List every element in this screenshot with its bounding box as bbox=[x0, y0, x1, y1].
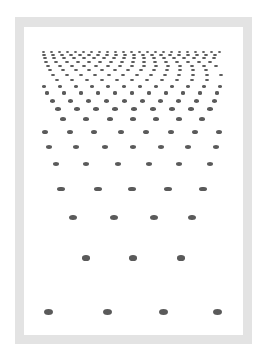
dot bbox=[72, 57, 75, 59]
dot bbox=[65, 61, 69, 63]
dot-field-canvas bbox=[24, 27, 243, 335]
dot bbox=[178, 69, 182, 72]
dot bbox=[58, 65, 62, 68]
dot bbox=[114, 51, 117, 53]
dot bbox=[93, 74, 97, 77]
dot bbox=[204, 54, 207, 56]
dot bbox=[194, 51, 197, 53]
dot bbox=[176, 99, 181, 102]
dot bbox=[122, 57, 125, 59]
dot bbox=[159, 54, 162, 56]
dot bbox=[218, 51, 221, 53]
dot bbox=[51, 54, 54, 56]
dot bbox=[202, 65, 206, 68]
dot bbox=[164, 91, 169, 94]
dot bbox=[149, 74, 153, 77]
dot bbox=[164, 187, 171, 192]
dot bbox=[192, 130, 198, 134]
dot bbox=[130, 79, 134, 82]
dot bbox=[208, 61, 212, 63]
dot bbox=[164, 61, 168, 63]
dot bbox=[62, 57, 65, 59]
dot bbox=[146, 162, 153, 166]
dot bbox=[140, 99, 145, 102]
dot bbox=[96, 91, 101, 94]
dot bbox=[120, 61, 124, 63]
dot bbox=[94, 187, 101, 192]
dot bbox=[68, 99, 73, 102]
dot bbox=[218, 85, 223, 88]
dot bbox=[175, 79, 179, 82]
dot bbox=[219, 74, 223, 77]
dot bbox=[172, 57, 175, 59]
dot bbox=[142, 57, 145, 59]
dot bbox=[153, 61, 157, 63]
dot bbox=[61, 69, 65, 72]
dot bbox=[66, 51, 69, 53]
dot bbox=[102, 145, 108, 149]
dot bbox=[139, 69, 143, 72]
dot bbox=[176, 117, 182, 121]
dot bbox=[182, 57, 185, 59]
dot bbox=[154, 85, 159, 88]
dot bbox=[202, 85, 207, 88]
dot bbox=[90, 51, 93, 53]
dot bbox=[73, 145, 79, 149]
dot bbox=[50, 51, 53, 53]
dot bbox=[190, 79, 194, 82]
dot bbox=[79, 91, 84, 94]
dot bbox=[177, 54, 180, 56]
dot bbox=[185, 145, 191, 149]
dot bbox=[126, 69, 130, 72]
dot bbox=[93, 107, 98, 111]
dot bbox=[205, 74, 209, 77]
dot bbox=[204, 69, 208, 72]
dot bbox=[82, 255, 90, 260]
dot bbox=[113, 69, 117, 72]
dot bbox=[122, 99, 127, 102]
dot bbox=[166, 65, 170, 68]
dot bbox=[106, 51, 109, 53]
dot bbox=[109, 61, 113, 63]
dot bbox=[67, 130, 73, 134]
dot bbox=[153, 117, 159, 121]
dot bbox=[55, 79, 59, 82]
dot bbox=[112, 107, 117, 111]
dot bbox=[46, 145, 52, 149]
dot bbox=[130, 65, 134, 68]
dot bbox=[205, 79, 209, 82]
dot bbox=[199, 187, 206, 192]
dot bbox=[198, 91, 203, 94]
dot bbox=[76, 61, 80, 63]
dot bbox=[92, 57, 95, 59]
dot bbox=[186, 61, 190, 63]
dot bbox=[147, 91, 152, 94]
dot bbox=[55, 107, 60, 111]
dot bbox=[74, 85, 79, 88]
dot bbox=[60, 117, 66, 121]
dot bbox=[130, 117, 136, 121]
dot bbox=[146, 51, 149, 53]
dot bbox=[107, 117, 113, 121]
dot bbox=[132, 57, 135, 59]
dot bbox=[70, 79, 74, 82]
dot bbox=[142, 61, 146, 63]
dot bbox=[199, 117, 205, 121]
dot bbox=[215, 91, 220, 94]
dot bbox=[100, 79, 104, 82]
dot bbox=[186, 85, 191, 88]
dot bbox=[188, 107, 193, 111]
dot bbox=[106, 85, 111, 88]
dot bbox=[190, 65, 194, 68]
dot bbox=[142, 65, 146, 68]
dot bbox=[150, 54, 153, 56]
dot bbox=[170, 51, 173, 53]
dot bbox=[175, 61, 179, 63]
dot bbox=[150, 107, 155, 111]
dot bbox=[195, 54, 198, 56]
dot bbox=[43, 57, 46, 59]
dot bbox=[74, 107, 79, 111]
dot bbox=[62, 91, 67, 94]
dot bbox=[115, 162, 122, 166]
dot bbox=[57, 187, 64, 192]
